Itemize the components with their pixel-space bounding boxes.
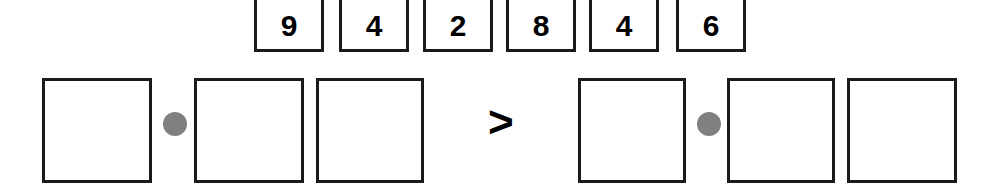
digit-tile[interactable]: 9 [254,0,324,52]
answer-box[interactable] [194,78,304,183]
digit-tile[interactable]: 6 [676,0,746,52]
multiplication-dot-icon [697,112,721,136]
digit-tile[interactable]: 4 [339,0,409,52]
multiplication-dot-icon [163,112,187,136]
digit-tile-value: 4 [616,11,633,49]
answer-box[interactable] [316,78,424,183]
answer-box[interactable] [727,78,835,183]
digit-tile-value: 8 [533,11,550,49]
answer-box[interactable] [42,78,152,183]
answer-box[interactable] [847,78,957,183]
digit-tile[interactable]: 4 [589,0,659,52]
digit-tile-value: 4 [366,11,383,49]
digit-tile[interactable]: 8 [506,0,576,52]
digit-tile-value: 9 [281,11,298,49]
digit-tile-value: 2 [450,11,467,49]
worksheet-canvas: 9 4 2 8 4 6 > [0,0,990,195]
answer-box[interactable] [578,78,686,183]
digit-tile-value: 6 [703,11,720,49]
comparison-operator[interactable]: > [488,100,514,144]
digit-tile[interactable]: 2 [423,0,493,52]
